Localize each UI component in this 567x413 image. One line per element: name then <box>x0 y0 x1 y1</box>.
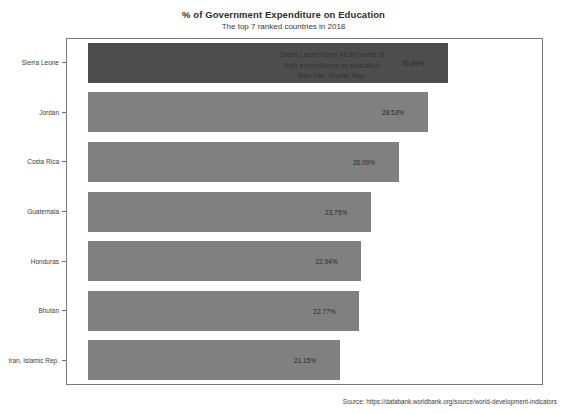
bar-row: 23.75% <box>66 192 543 232</box>
bar-value-label: 21.15% <box>280 357 316 364</box>
bar-value-label: 22.77% <box>299 307 335 314</box>
y-axis-tick: Guatemala <box>27 206 66 218</box>
bar-row: 22.94% <box>66 241 543 281</box>
y-axis-tick: Jordan <box>39 106 66 118</box>
chart-annotation: Sierra Leone spent 42.8% more oftheir ex… <box>262 50 402 82</box>
y-axis-tick-label: Iran, Islamic Rep. <box>8 357 62 364</box>
y-axis-tick-label: Bhutan <box>38 307 62 314</box>
bar-row: 21.15% <box>66 340 543 380</box>
bar-value-label: 23.75% <box>311 208 347 215</box>
y-axis-tick-label: Sierra Leone <box>22 59 62 66</box>
y-axis-tick: Costa Rica <box>27 156 66 168</box>
bar-row: 26.09% <box>66 142 543 182</box>
annotation-line: Sierra Leone spent 42.8% more of <box>262 50 402 61</box>
y-axis-tick: Iran, Islamic Rep. <box>8 354 66 366</box>
chart-subtitle: The top 7 ranked countries in 2018 <box>0 21 567 33</box>
y-axis: Sierra LeoneJordanCosta RicaGuatemalaHon… <box>0 38 66 385</box>
bar-value-label: 28.53% <box>368 109 404 116</box>
y-axis-tick-label: Jordan <box>39 109 62 116</box>
bars-layer: 30.20%28.53%26.09%23.75%22.94%22.77%21.1… <box>66 38 543 385</box>
y-axis-tick: Bhutan <box>38 305 66 317</box>
y-axis-tick: Sierra Leone <box>22 57 66 69</box>
bar-chart: % of Government Expenditure on Education… <box>0 0 567 413</box>
bar-row: 28.53% <box>66 92 543 132</box>
chart-title-block: % of Government Expenditure on Education… <box>0 8 567 33</box>
source-note: Source: https://databank.worldbank.org/s… <box>343 398 557 405</box>
y-axis-tick: Honduras <box>31 255 66 267</box>
annotation-line: than Iran, Islamic Rep. <box>262 71 402 82</box>
y-axis-tick-label: Costa Rica <box>27 158 62 165</box>
bar-value-label: 26.09% <box>339 158 375 165</box>
bar-row: 22.77% <box>66 291 543 331</box>
page-title: % of Government Expenditure on Education <box>0 8 567 21</box>
bar-value-label: 22.94% <box>301 258 337 265</box>
y-axis-tick-label: Honduras <box>31 258 62 265</box>
annotation-line: their expenditures on education <box>262 61 402 72</box>
y-axis-tick-label: Guatemala <box>27 208 62 215</box>
